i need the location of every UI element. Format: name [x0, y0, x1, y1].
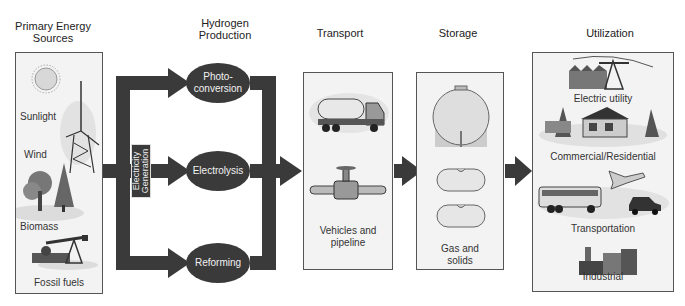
sources-illustrations: [16, 53, 102, 293]
oil-pump-icon: [32, 235, 98, 270]
electricity-generation-label: Electricity Generation: [132, 149, 150, 194]
storage-label-line2: solids: [417, 255, 503, 267]
wind-turbine-icon: [60, 81, 99, 173]
process-photoconversion: Photo- conversion: [186, 71, 250, 95]
utilization-commercial-residential: Commercial/Residential: [533, 151, 673, 163]
trees-icon: [16, 163, 84, 221]
utilization-electric-utility: Electric utility: [533, 93, 673, 105]
utilization-transportation: Transportation: [533, 223, 673, 235]
process-electrolysis-line1: Electrolysis: [186, 165, 250, 177]
electricity-generation-box: Electricity Generation: [131, 144, 151, 198]
transport-label-line2: pipeline: [304, 237, 392, 249]
transport-label-line1: Vehicles and: [304, 225, 392, 237]
vehicles-icon: [537, 171, 669, 219]
process-photoconversion-line1: Photo-: [186, 71, 250, 83]
process-reforming-line1: Reforming: [186, 257, 250, 269]
source-wind: Wind: [24, 149, 64, 161]
process-reforming: Reforming: [186, 257, 250, 269]
transport-label: Vehicles and pipeline: [304, 225, 392, 249]
pipeline-valve-icon: [310, 166, 386, 199]
transport-panel: Vehicles and pipeline: [303, 72, 393, 270]
storage-label-line1: Gas and: [417, 243, 503, 255]
sources-panel: Sunlight Wind Biomass Fossil fuels: [15, 52, 103, 294]
source-biomass: Biomass: [20, 221, 70, 233]
utilization-illustrations: [533, 53, 673, 291]
sun-icon: [32, 65, 60, 93]
storage-illustrations: [417, 73, 503, 269]
power-plant-icon: [569, 56, 653, 89]
spherical-tank-icon: [433, 86, 489, 147]
process-photoconversion-line2: conversion: [186, 83, 250, 95]
utilization-panel: Electric utility Commercial/Residential …: [532, 52, 674, 292]
tanker-truck-icon: [309, 93, 389, 133]
utilization-industrial: Industrial: [533, 271, 673, 283]
house-icon: [539, 107, 667, 147]
source-fossil-fuels: Fossil fuels: [16, 277, 102, 289]
process-electrolysis: Electrolysis: [186, 165, 250, 177]
storage-label: Gas and solids: [417, 243, 503, 267]
electricity-generation-line2: Generation: [141, 149, 150, 194]
source-sunlight: Sunlight: [20, 111, 60, 123]
cylinder-tank-icon: [437, 169, 485, 227]
storage-panel: Gas and solids: [416, 72, 504, 270]
